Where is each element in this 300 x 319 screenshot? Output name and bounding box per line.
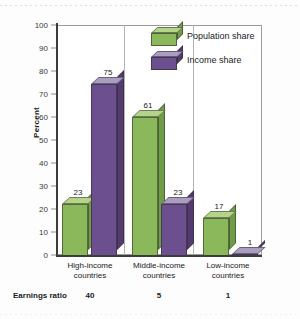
y-tick-20: 20 (18, 205, 48, 214)
y-tick-10: 10 (18, 228, 48, 237)
purple-cube-icon (151, 57, 177, 70)
bar-value-income-share-high-income: 75 (95, 68, 121, 77)
earnings-ratio-label: Earnings ratio (13, 291, 67, 300)
bar-front-face (132, 117, 158, 257)
y-tick-40: 40 (18, 159, 48, 168)
bar-chart: Percent 100 90 80 70 60 50 40 30 20 (0, 0, 300, 319)
earnings-ratio-value-low-income: 1 (213, 291, 243, 300)
bar-value-income-share-low-income: 1 (237, 238, 263, 247)
y-tick-0: 0 (18, 251, 48, 260)
x-category-line-1: High-income (50, 261, 130, 271)
bar-value-population-share-high-income: 23 (65, 188, 91, 197)
bar-population-share-middle-income[interactable] (132, 117, 158, 257)
earnings-ratio-row: Earnings ratio 40 5 1 (0, 291, 300, 305)
x-category-label-high-income: High-income countries (50, 261, 130, 281)
bar-income-share-high-income[interactable] (91, 84, 117, 257)
x-category-line-2: countries (188, 271, 268, 281)
y-tick-90: 90 (18, 44, 48, 53)
earnings-ratio-value-middle-income: 5 (144, 291, 174, 300)
bar-value-population-share-low-income: 17 (206, 202, 232, 211)
bar-value-population-share-middle-income: 61 (135, 101, 161, 110)
y-tick-80: 80 (18, 67, 48, 76)
x-category-line-1: Low-income (188, 261, 268, 271)
x-axis-line (56, 255, 262, 257)
bar-side-face (117, 70, 124, 250)
bar-population-share-low-income[interactable] (203, 218, 229, 257)
y-tick-50: 50 (18, 136, 48, 145)
bar-value-income-share-middle-income: 23 (165, 188, 191, 197)
legend-label-population-share: Population share (187, 31, 255, 41)
legend-label-income-share: Income share (187, 55, 242, 65)
bar-income-share-middle-income[interactable] (161, 204, 187, 257)
bar-front-face (62, 204, 88, 257)
green-cube-icon (151, 33, 177, 46)
x-category-line-2: countries (50, 271, 130, 281)
x-category-label-low-income: Low-income countries (188, 261, 268, 281)
y-tick-60: 60 (18, 113, 48, 122)
x-category-line-2: countries (119, 271, 199, 281)
y-tick-70: 70 (18, 90, 48, 99)
bar-front-face (161, 204, 187, 257)
bar-population-share-high-income[interactable] (62, 204, 88, 257)
category-separator-1 (124, 25, 125, 255)
bar-front-face (203, 218, 229, 257)
x-category-line-1: Middle-income (119, 261, 199, 271)
earnings-ratio-value-high-income: 40 (75, 291, 105, 300)
x-category-label-middle-income: Middle-income countries (119, 261, 199, 281)
y-axis-line (56, 23, 58, 257)
chart-figure: Percent 100 90 80 70 60 50 40 30 20 (0, 0, 300, 319)
y-tick-100: 100 (18, 21, 48, 30)
bar-front-face (91, 84, 117, 257)
y-tick-30: 30 (18, 182, 48, 191)
